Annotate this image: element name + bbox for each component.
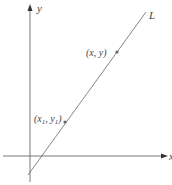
point-label-x1-y1: (x1, y1) [34,113,62,126]
x-axis-label: x [168,150,172,162]
point-x1-y1 [63,120,66,123]
y-axis-label: y [36,2,42,14]
y-axis-arrow-icon [28,4,33,11]
line-L [28,12,146,175]
point-x-y [115,50,118,53]
coordinate-diagram: y x L (x, y) (x1, y1) [0,0,172,185]
point-label-x-y: (x, y) [86,47,107,59]
line-label: L [148,9,155,21]
x-axis-arrow-icon [161,154,168,159]
